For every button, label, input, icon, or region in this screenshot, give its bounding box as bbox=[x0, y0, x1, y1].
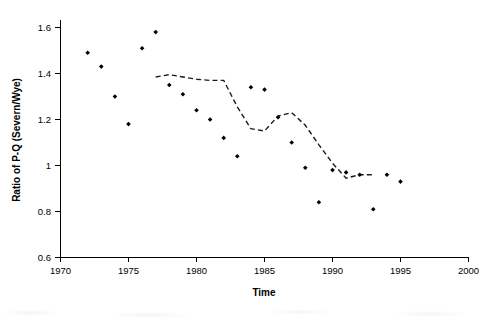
data-point-group bbox=[85, 30, 402, 212]
data-point bbox=[344, 170, 349, 175]
x-axis-title: Time bbox=[252, 287, 276, 298]
data-point bbox=[235, 154, 240, 159]
chart-container: 1.6 1.4 1.2 1 0.8 0.6 1970 1975 1980 198… bbox=[0, 0, 499, 321]
x-tick-label-1975: 1975 bbox=[118, 265, 139, 276]
data-point bbox=[85, 51, 90, 56]
x-tick-label-1985: 1985 bbox=[254, 265, 275, 276]
x-tick-label-1990: 1990 bbox=[322, 265, 343, 276]
y-tick-label-1.2: 1.2 bbox=[38, 114, 51, 125]
data-point bbox=[181, 92, 186, 97]
y-tick-label-0.8: 0.8 bbox=[38, 206, 51, 217]
data-point bbox=[398, 179, 403, 184]
data-point bbox=[330, 168, 335, 173]
y-axis-title: Ratio of P-Q (Severn/Wye) bbox=[11, 78, 22, 202]
data-point bbox=[385, 172, 390, 177]
data-point bbox=[289, 140, 294, 145]
y-tick-label-1.4: 1.4 bbox=[38, 68, 51, 79]
y-tick-label-1.6: 1.6 bbox=[38, 22, 51, 33]
data-point bbox=[99, 64, 104, 69]
data-point bbox=[303, 166, 308, 171]
data-point bbox=[140, 46, 145, 51]
data-point bbox=[371, 207, 376, 212]
x-tick-label-2000: 2000 bbox=[458, 265, 479, 276]
x-tick-label-1970: 1970 bbox=[50, 265, 71, 276]
data-point bbox=[153, 30, 158, 35]
data-point bbox=[262, 87, 267, 92]
data-point bbox=[208, 117, 213, 122]
scatter-plot: 1.6 1.4 1.2 1 0.8 0.6 1970 1975 1980 198… bbox=[0, 0, 499, 321]
data-point bbox=[249, 85, 254, 90]
data-point bbox=[113, 94, 118, 99]
y-axis-ticks: 1.6 1.4 1.2 1 0.8 0.6 bbox=[38, 22, 60, 263]
y-tick-label-1: 1 bbox=[46, 160, 51, 171]
data-point bbox=[317, 200, 322, 205]
x-axis-ticks: 1970 1975 1980 1985 1990 1995 2000 bbox=[50, 257, 479, 276]
y-tick-label-0.6: 0.6 bbox=[38, 252, 51, 263]
data-point bbox=[167, 83, 172, 88]
data-point bbox=[194, 108, 199, 113]
data-point bbox=[126, 122, 131, 127]
x-tick-label-1980: 1980 bbox=[186, 265, 207, 276]
x-tick-label-1995: 1995 bbox=[390, 265, 411, 276]
data-point bbox=[221, 136, 226, 141]
data-point bbox=[357, 172, 362, 177]
